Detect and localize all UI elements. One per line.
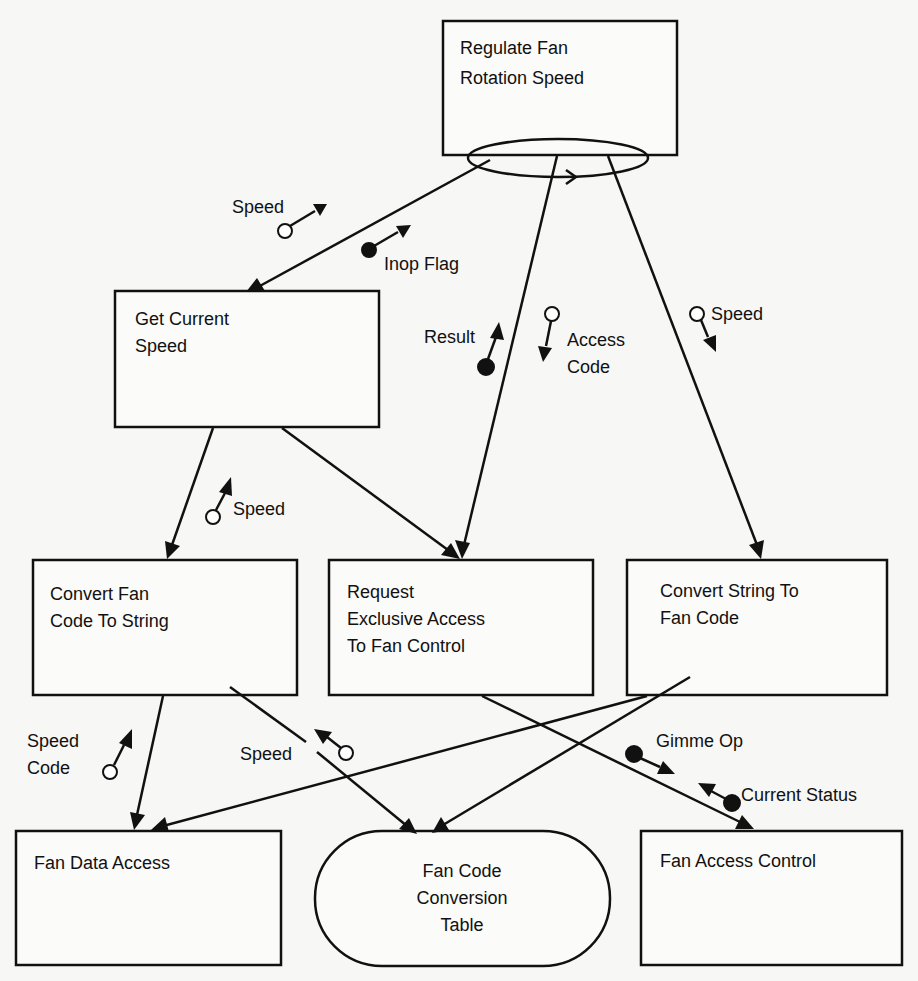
couple-label: Speed	[232, 197, 284, 217]
couple-label: Speed	[233, 499, 285, 519]
module-label: Get Current	[135, 309, 229, 329]
couple-speed-code-open: Speed Code	[27, 729, 132, 779]
couple-gimme-op-filled: Gimme Op	[626, 731, 743, 774]
module-request-exclusive-access: Request Exclusive Access To Fan Control	[329, 560, 593, 695]
module-convert-fan-code-to-string: Convert Fan Code To String	[33, 560, 297, 695]
module-label: Regulate Fan	[460, 38, 568, 58]
module-get-current-speed: Get Current Speed	[115, 291, 379, 427]
module-label: Fan Code	[422, 861, 501, 881]
couple-speed-open-right: Speed	[690, 304, 763, 352]
couple-label: Inop Flag	[384, 254, 459, 274]
module-label: Conversion	[416, 888, 507, 908]
couple-result-filled: Result	[424, 322, 504, 375]
module-convert-string-to-fan-code: Convert String To Fan Code	[627, 560, 887, 695]
couple-label: Code	[27, 758, 70, 778]
module-label: Rotation Speed	[460, 68, 584, 88]
module-label: Code To String	[50, 611, 169, 631]
module-label: Convert Fan	[50, 584, 149, 604]
structure-chart: Regulate Fan Rotation Speed Get Current …	[0, 0, 918, 981]
module-label: Exclusive Access	[347, 609, 485, 629]
couple-label: Code	[567, 357, 610, 377]
module-label: Convert String To	[660, 581, 799, 601]
module-fan-data-access: Fan Data Access	[16, 831, 281, 965]
couple-current-status-filled: Current Status	[698, 783, 857, 811]
module-label: To Fan Control	[347, 636, 465, 656]
data-store-fan-code-conversion-table: Fan Code Conversion Table	[315, 831, 610, 966]
couple-speed-open: Speed	[232, 197, 327, 238]
module-label: Request	[347, 582, 414, 602]
module-label: Speed	[135, 336, 187, 356]
couple-inop-flag-filled: Inop Flag	[362, 225, 459, 274]
couple-label: Current Status	[741, 785, 857, 805]
module-regulate-fan-rotation-speed: Regulate Fan Rotation Speed	[443, 21, 677, 155]
couple-label: Result	[424, 327, 475, 347]
connection-get-speed-to-code-to-string	[165, 428, 213, 559]
connection-regulate-to-string-to-code	[608, 156, 764, 559]
couple-access-code-open: Access Code	[538, 307, 625, 377]
connection-string-to-code-to-fan-data-access	[151, 696, 647, 832]
connection-string-to-code-to-conversion-table	[432, 677, 690, 833]
module-fan-access-control: Fan Access Control	[641, 831, 902, 965]
connection-request-access-to-fan-access-control	[482, 696, 754, 829]
module-label: Fan Code	[660, 608, 739, 628]
couple-label: Speed	[27, 731, 79, 751]
module-label: Fan Data Access	[34, 853, 170, 873]
couple-label: Speed	[711, 304, 763, 324]
module-label: Fan Access Control	[660, 851, 816, 871]
couple-label: Gimme Op	[656, 731, 743, 751]
module-label: Table	[440, 915, 483, 935]
couple-label: Speed	[240, 744, 292, 764]
couple-speed-open-middle: Speed	[206, 477, 285, 524]
connection-get-speed-to-request-access	[282, 428, 460, 559]
connection-code-to-string-to-fan-data-access	[130, 696, 163, 830]
couple-label: Access	[567, 330, 625, 350]
